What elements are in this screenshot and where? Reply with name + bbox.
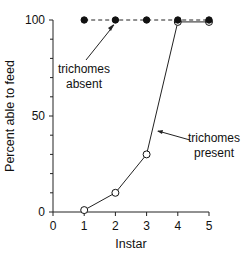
- data-point: [81, 17, 87, 23]
- data-point: [143, 151, 150, 158]
- series-lines: [84, 20, 209, 210]
- data-point: [175, 17, 181, 23]
- annotations: trichomesabsenttrichomespresent: [58, 24, 240, 160]
- x-tick-label: 0: [50, 219, 57, 233]
- x-tick-label: 3: [143, 219, 150, 233]
- x-tick-label: 5: [206, 219, 213, 233]
- y-tick-label: 0: [38, 205, 45, 219]
- annotation-arrow: [158, 131, 190, 140]
- data-point: [206, 17, 212, 23]
- y-tick-label: 100: [25, 13, 45, 27]
- arrowhead-icon: [157, 130, 163, 134]
- data-point: [112, 189, 119, 196]
- annotation-arrow: [86, 25, 114, 60]
- x-tick-label: 2: [112, 219, 119, 233]
- annotation-present-text: trichomes: [188, 131, 240, 145]
- arrowhead-icon: [108, 24, 114, 31]
- annotation-absent-text: trichomes: [58, 62, 110, 76]
- axes: [53, 20, 209, 212]
- x-tick-label: 4: [174, 219, 181, 233]
- x-axis-label: Instar: [115, 237, 146, 251]
- y-axis-label: Percent able to feed: [3, 60, 17, 172]
- data-point: [81, 207, 88, 214]
- data-point: [143, 17, 149, 23]
- series-markers: [81, 17, 213, 214]
- x-tick-label: 1: [81, 219, 88, 233]
- data-point: [112, 17, 118, 23]
- line-chart: 050100012345 trichomesabsenttrichomespre…: [0, 0, 252, 255]
- series-line-1: [84, 22, 209, 210]
- y-tick-label: 50: [32, 109, 46, 123]
- annotation-present-text: present: [194, 146, 235, 160]
- annotation-absent-text: absent: [66, 77, 103, 91]
